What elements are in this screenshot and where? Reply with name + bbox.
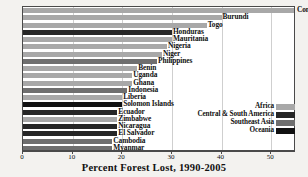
bar-row	[23, 44, 295, 49]
x-tick-label: 0	[20, 154, 24, 161]
bar-el-salvador	[23, 131, 117, 136]
bar-row	[23, 23, 295, 28]
legend-label: Oceania	[250, 127, 274, 134]
bar-ecuador	[23, 110, 117, 115]
legend: Africa Central & South America Southeast…	[197, 103, 295, 135]
country-label-burundi: Burundi	[223, 13, 249, 20]
bar-cambodia	[23, 139, 112, 144]
bar-row	[23, 30, 295, 35]
legend-swatch-central-south-america	[276, 112, 295, 118]
bar-indonesia	[23, 88, 127, 93]
x-axis-title: Percent Forest Lost, 1990-2005	[0, 162, 308, 173]
x-axis-line	[22, 151, 295, 152]
country-label-philippines: Philippines	[158, 57, 192, 64]
legend-swatch-africa	[276, 104, 295, 110]
x-tick-label: 10	[68, 154, 75, 161]
legend-swatch-southeast-asia	[276, 120, 295, 126]
country-label-togo: Togo	[208, 21, 223, 28]
x-tick-label: 40	[217, 154, 224, 161]
x-tick-label: 50	[267, 154, 274, 161]
bar-row	[23, 88, 295, 93]
bar-honduras	[23, 30, 172, 35]
legend-item-southeast-asia: Southeast Asia	[197, 119, 295, 126]
bar-philippines	[23, 59, 157, 64]
country-label-comoros: Comoros	[297, 6, 308, 13]
legend-swatch-oceania	[276, 128, 295, 134]
x-tick-label: 20	[118, 154, 125, 161]
bar-nigeria	[23, 44, 167, 49]
bar-benin	[23, 66, 137, 71]
bar-zimbabwe	[23, 117, 117, 122]
x-tick-label: 30	[167, 154, 174, 161]
bar-solomon-islands	[23, 102, 122, 107]
bar-row	[23, 37, 295, 42]
legend-item-central-south-america: Central & South America	[197, 111, 295, 118]
legend-item-africa: Africa	[197, 103, 295, 110]
bar-ghana	[23, 81, 132, 86]
bar-mauritania	[23, 37, 172, 42]
forest-loss-bar-chart: ComorosBurundiTogoHondurasMauritaniaNige…	[0, 0, 308, 177]
bar-row	[23, 139, 295, 144]
bar-row	[23, 8, 295, 13]
bar-comoros	[23, 8, 295, 13]
bar-burundi	[23, 15, 222, 20]
bar-nicaragua	[23, 124, 117, 129]
bar-uganda	[23, 73, 132, 78]
bar-niger	[23, 52, 162, 57]
bar-liberia	[23, 95, 122, 100]
bar-row	[23, 81, 295, 86]
bar-row	[23, 66, 295, 71]
bar-row	[23, 15, 295, 20]
legend-item-oceania: Oceania	[197, 127, 295, 134]
bar-row	[23, 73, 295, 78]
